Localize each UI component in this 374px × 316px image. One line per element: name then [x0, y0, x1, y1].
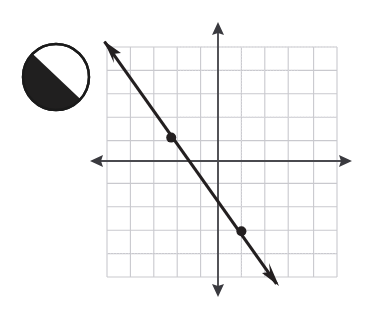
grid-dotted-accents	[107, 47, 337, 277]
axis-arrowheads	[90, 22, 352, 297]
grid-horizontal-lines	[107, 47, 337, 277]
plotted-point-lower[interactable]	[236, 226, 246, 236]
grid-vertical-lines	[107, 47, 337, 277]
coordinate-plane-svg	[0, 0, 374, 316]
plotted-point-upper[interactable]	[166, 133, 176, 143]
figure-canvas	[0, 0, 374, 316]
axes	[94, 26, 348, 293]
grid-lines	[107, 47, 337, 277]
half-shaded-circle-icon	[14, 42, 92, 120]
